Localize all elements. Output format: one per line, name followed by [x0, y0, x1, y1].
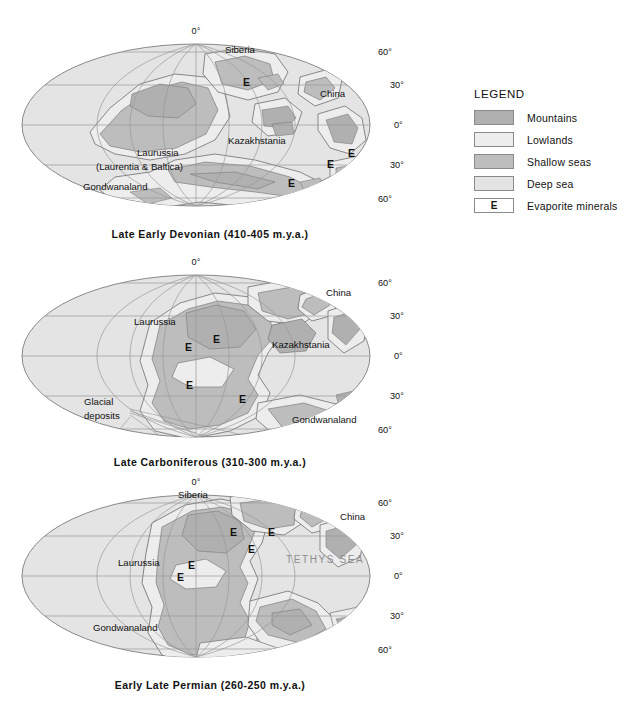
label-gondwanaland: Gondwanaland	[93, 622, 158, 633]
graticule-label-top: 0°	[192, 257, 201, 267]
legend-label-lowlands: Lowlands	[527, 134, 573, 146]
label-china: China	[326, 287, 352, 298]
graticule-label-eq: 0°	[394, 120, 403, 130]
graticule-label-s60: 60°	[378, 645, 392, 655]
legend-swatch-evaporites: E	[474, 198, 514, 213]
evaporite-marker: E	[327, 158, 334, 170]
map-svg-permian: 0° 60° 30° 0° 30° 60° Siberia China Laur…	[0, 473, 420, 673]
label-glacial: Glacial	[84, 396, 113, 407]
label-laurentia-baltica: (Laurentia & Baltica)	[96, 161, 183, 172]
legend-item-evaporites: E Evaporite minerals	[474, 197, 624, 214]
legend-swatch-deep-sea	[474, 176, 514, 191]
graticule-label-eq: 0°	[394, 571, 403, 581]
graticule-label-n60: 60°	[378, 498, 392, 508]
graticule-label-n30: 30°	[390, 311, 404, 321]
legend-label-shallow-seas: Shallow seas	[527, 156, 591, 168]
graticule-label-top: 0°	[192, 477, 201, 487]
graticule-label-top: 0°	[192, 26, 201, 36]
evaporite-marker: E	[213, 333, 220, 345]
legend-swatch-lowlands	[474, 132, 514, 147]
legend-item-mountains: Mountains	[474, 109, 624, 126]
legend-item-deep-sea: Deep sea	[474, 175, 624, 192]
legend-label-evaporites: Evaporite minerals	[527, 200, 618, 212]
graticule-label-n30: 30°	[390, 531, 404, 541]
evaporite-marker: E	[348, 147, 355, 159]
caption-permian: Early Late Permian (260-250 m.y.a.)	[0, 679, 420, 691]
caption-carboniferous: Late Carboniferous (310-300 m.y.a.)	[0, 456, 420, 468]
legend-item-shallow-seas: Shallow seas	[474, 153, 624, 170]
label-laurussia: Laurussia	[134, 316, 176, 327]
label-tethys-sea: TETHYS SEA	[286, 554, 364, 565]
label-china: China	[340, 511, 366, 522]
evaporite-marker: E	[185, 341, 192, 353]
label-glacial-deposits: deposits	[84, 410, 120, 421]
label-china: China	[320, 88, 346, 99]
evaporite-marker: E	[268, 526, 275, 538]
label-laurussia: Laurussia	[137, 147, 179, 158]
evaporite-marker: E	[188, 559, 195, 571]
label-gondwanaland: Gondwanaland	[83, 181, 148, 192]
graticule-label-n60: 60°	[378, 47, 392, 57]
graticule-label-s30: 30°	[390, 391, 404, 401]
map-panel-permian: 0° 60° 30° 0° 30° 60° Siberia China Laur…	[0, 473, 420, 688]
label-laurussia: Laurussia	[118, 557, 160, 568]
evaporite-marker: E	[239, 393, 246, 405]
label-siberia: Siberia	[225, 44, 256, 55]
label-siberia: Siberia	[178, 489, 209, 500]
label-kazakhstania: Kazakhstania	[272, 339, 330, 350]
evaporite-marker: E	[230, 526, 237, 538]
legend-swatch-mountains	[474, 110, 514, 125]
evaporite-marker: E	[243, 76, 250, 88]
graticule-label-s30: 30°	[390, 611, 404, 621]
evaporite-marker: E	[248, 543, 255, 555]
graticule-label-s60: 60°	[378, 194, 392, 204]
label-gondwanaland: Gondwanaland	[292, 414, 357, 425]
legend-item-lowlands: Lowlands	[474, 131, 624, 148]
evaporite-marker: E	[186, 379, 193, 391]
map-panel-devonian: 0° 60° 30° 0° 30° 60° Siberia China Kaza…	[0, 22, 420, 237]
graticule-label-n60: 60°	[378, 278, 392, 288]
graticule-label-s60: 60°	[378, 425, 392, 435]
legend-label-deep-sea: Deep sea	[527, 178, 574, 190]
caption-devonian: Late Early Devonian (410-405 m.y.a.)	[0, 228, 420, 240]
evaporite-marker: E	[177, 571, 184, 583]
graticule-label-s30: 30°	[390, 160, 404, 170]
legend-swatch-shallow-seas	[474, 154, 514, 169]
legend-label-mountains: Mountains	[527, 112, 577, 124]
legend: LEGEND Mountains Lowlands Shallow seas D…	[474, 88, 624, 219]
map-svg-devonian: 0° 60° 30° 0° 30° 60° Siberia China Kaza…	[0, 22, 420, 222]
map-panel-carboniferous: 0° 60° 30° 0° 30° 60° Laurussia China Ka…	[0, 253, 420, 468]
map-svg-carboniferous: 0° 60° 30° 0° 30° 60° Laurussia China Ka…	[0, 253, 420, 453]
label-kazakhstania: Kazakhstania	[228, 135, 286, 146]
evaporite-marker: E	[288, 177, 295, 189]
graticule-label-n30: 30°	[390, 80, 404, 90]
graticule-label-eq: 0°	[394, 351, 403, 361]
legend-title: LEGEND	[474, 88, 624, 100]
